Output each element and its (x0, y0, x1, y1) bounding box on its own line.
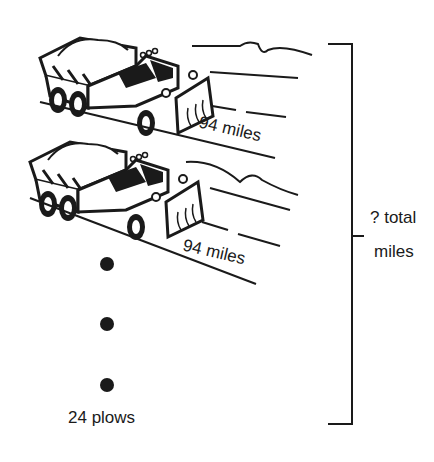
total-label-line1: ? total (370, 208, 416, 228)
ellipsis-dot-1 (100, 257, 114, 271)
plow-count-label: 24 plows (68, 408, 135, 428)
snowplow-2 (30, 142, 298, 284)
ellipsis-dot-3 (100, 378, 114, 392)
ellipsis-dot-2 (100, 317, 114, 331)
total-bracket (328, 44, 364, 424)
diagram-canvas (0, 0, 434, 462)
total-label-line2: miles (374, 242, 414, 262)
snowplow-1 (40, 38, 312, 158)
